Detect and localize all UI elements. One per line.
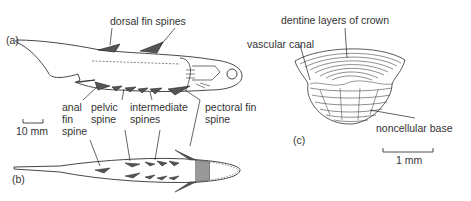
scale-label-1mm: 1 mm bbox=[396, 154, 422, 166]
figure: (a) (b) (c) dorsal fin spines anal fin s… bbox=[0, 0, 471, 201]
scale-bar-10mm bbox=[23, 119, 43, 123]
label-anal-fin-spine: anal fin spine bbox=[62, 101, 87, 137]
scale-bar-1mm bbox=[383, 148, 433, 152]
label-vascular-canal: vascular canal bbox=[247, 38, 314, 50]
panel-label-c: (c) bbox=[293, 134, 305, 146]
label-dentine-layers: dentine layers of crown bbox=[281, 14, 389, 26]
label-pectoral-fin-spine: pectoral fin spine bbox=[205, 101, 256, 125]
label-dorsal-fin-spines: dorsal fin spines bbox=[110, 15, 186, 27]
scale-section-drawing bbox=[295, 49, 405, 124]
scale-label-10mm: 10 mm bbox=[16, 125, 48, 137]
label-intermediate-spines: intermediate spines bbox=[130, 101, 188, 125]
panel-label-a: (a) bbox=[6, 34, 19, 46]
fish-lateral-drawing bbox=[16, 40, 242, 92]
label-noncellular-base: noncellular base bbox=[376, 122, 452, 134]
dorsal-fin-spines bbox=[98, 42, 163, 53]
label-pelvic-spine: pelvic spine bbox=[91, 101, 118, 125]
panel-label-b: (b) bbox=[12, 173, 25, 185]
fish-ventral-drawing bbox=[14, 158, 240, 182]
